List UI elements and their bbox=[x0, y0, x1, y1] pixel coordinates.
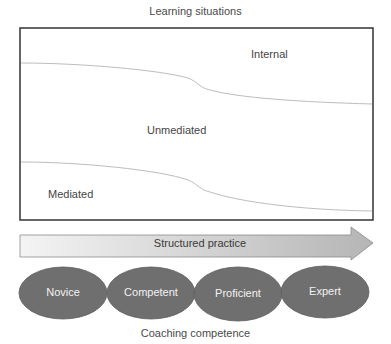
diagram-footer: Coaching competence bbox=[0, 327, 391, 339]
region-label-unmediated: Unmediated bbox=[147, 124, 206, 136]
stage-label-competent: Competent bbox=[107, 286, 195, 298]
arrow-label: Structured practice bbox=[120, 237, 280, 249]
stage-label-novice: Novice bbox=[19, 286, 107, 298]
region-label-mediated: Mediated bbox=[48, 188, 93, 200]
stage-label-expert: Expert bbox=[281, 285, 369, 297]
region-label-internal: Internal bbox=[251, 48, 288, 60]
stage-label-proficient: Proficient bbox=[194, 287, 282, 299]
